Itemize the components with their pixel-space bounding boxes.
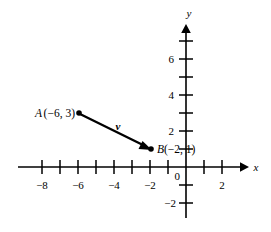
point-b-coords: (−2, 1) — [164, 143, 196, 156]
vector-v-shaft — [80, 114, 145, 146]
coordinate-plane-svg: −8 −6 −4 −2 2 x — [0, 0, 271, 232]
point-b-label: B(−2, 1) — [157, 143, 196, 156]
y-tick-label-2: 2 — [169, 125, 175, 137]
point-b-marker — [148, 146, 154, 152]
x-tick-label--2: −2 — [144, 179, 156, 191]
y-axis-label: y — [186, 7, 192, 19]
x-axis-arrowhead — [240, 162, 249, 172]
vector-v-label: v — [116, 120, 121, 132]
point-a-marker — [76, 110, 82, 116]
x-axis-label: x — [253, 161, 259, 173]
x-tick-label--4: −4 — [108, 179, 120, 191]
point-b-letter: B — [157, 143, 164, 155]
y-tick-label-4: 4 — [169, 89, 175, 101]
point-a-label: A(−6, 3) — [34, 107, 75, 120]
vector-diagram-figure: −8 −6 −4 −2 2 x — [0, 0, 271, 232]
vector-v-group: v — [80, 114, 152, 150]
x-tick-label--8: −8 — [36, 179, 48, 191]
y-tick-label-6: 6 — [169, 53, 175, 65]
point-a-group: A(−6, 3) — [34, 107, 82, 120]
y-axis-arrowhead — [181, 24, 191, 33]
y-tick-label--2: −2 — [164, 197, 176, 209]
point-b-group: B(−2, 1) — [148, 143, 195, 156]
x-tick-label-2: 2 — [219, 179, 225, 191]
y-axis-group: 6 4 2 −2 y — [164, 7, 193, 218]
point-a-coords: (−6, 3) — [44, 107, 76, 120]
origin-label: 0 — [175, 170, 181, 182]
x-tick-label--6: −6 — [72, 179, 84, 191]
x-axis-group: −8 −6 −4 −2 2 x — [18, 160, 259, 191]
point-a-letter: A — [34, 107, 43, 119]
